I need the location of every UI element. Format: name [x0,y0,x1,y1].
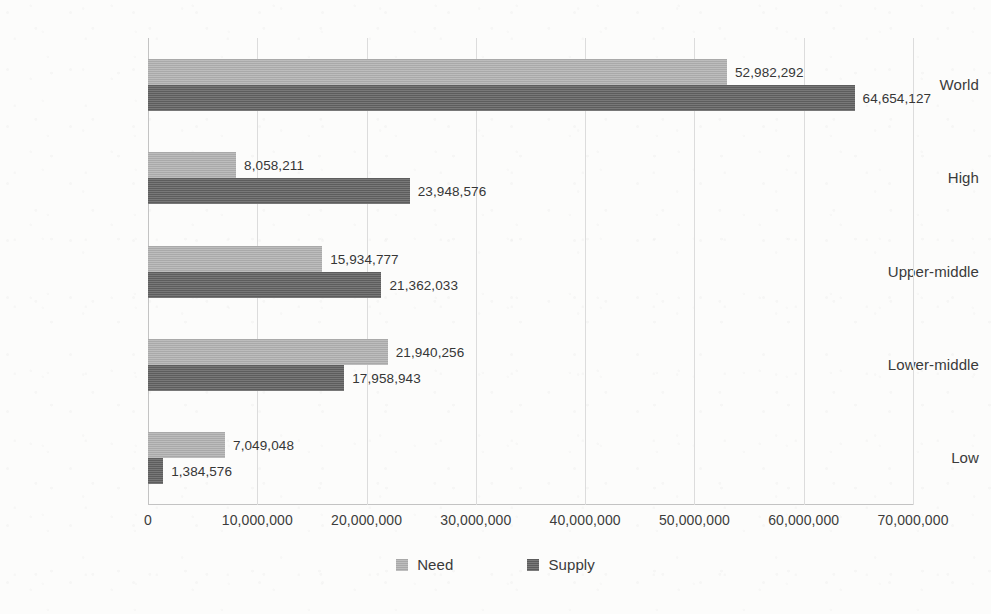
y-axis-category-label: Low [951,449,979,466]
bar-supply[interactable]: 21,362,033 [148,272,381,298]
bar-supply[interactable]: 64,654,127 [148,85,855,111]
bar-need[interactable]: 8,058,211 [148,152,236,178]
bar-value-label: 64,654,127 [863,90,932,105]
legend-item-need[interactable]: Need [396,556,453,573]
bar-value-label: 21,940,256 [396,344,465,359]
bar-chart: WorldHighUpper-middleLower-middleLow 52,… [0,0,991,614]
bar-supply[interactable]: 17,958,943 [148,365,344,391]
bar-row: 1,384,576 [148,458,913,484]
bar-group: 52,982,29264,654,127 [148,59,913,111]
bar-value-label: 1,384,576 [171,464,232,479]
bar-value-label: 17,958,943 [352,370,421,385]
x-axis-tick-label: 60,000,000 [768,512,839,528]
bar-value-label: 15,934,777 [330,251,399,266]
legend-swatch-icon [527,559,539,571]
bar-value-label: 23,948,576 [418,184,487,199]
bar-need[interactable]: 7,049,048 [148,432,225,458]
bar-row: 23,948,576 [148,178,913,204]
bar-need[interactable]: 52,982,292 [148,59,727,85]
x-axis-tick-label: 50,000,000 [659,512,730,528]
bar-row: 21,362,033 [148,272,913,298]
bar-need[interactable]: 15,934,777 [148,246,322,272]
bar-row: 21,940,256 [148,339,913,365]
bar-group: 21,940,25617,958,943 [148,339,913,391]
bar-group: 15,934,77721,362,033 [148,246,913,298]
bar-value-label: 8,058,211 [244,158,304,173]
x-axis-tick-label: 0 [144,512,152,528]
bar-need[interactable]: 21,940,256 [148,339,388,365]
y-axis-category-label: High [948,169,979,186]
legend-label: Need [417,556,453,573]
x-axis-tick-label: 10,000,000 [222,512,293,528]
x-axis-tick-label: 30,000,000 [440,512,511,528]
legend-label: Supply [548,556,594,573]
bar-supply[interactable]: 1,384,576 [148,458,163,484]
y-axis-category-label: World [940,76,979,93]
bar-group: 7,049,0481,384,576 [148,432,913,484]
bar-row: 15,934,777 [148,246,913,272]
bar-row: 17,958,943 [148,365,913,391]
legend-swatch-icon [396,559,408,571]
legend-item-supply[interactable]: Supply [527,556,594,573]
bar-value-label: 52,982,292 [735,64,804,79]
x-axis-tick-label: 40,000,000 [550,512,621,528]
bar-row: 64,654,127 [148,85,913,111]
bar-value-label: 7,049,048 [233,438,294,453]
chart-legend: NeedSupply [0,556,991,573]
bar-group: 8,058,21123,948,576 [148,152,913,204]
x-axis-tick-label: 20,000,000 [331,512,402,528]
x-axis-tick-label: 70,000,000 [877,512,948,528]
bar-row: 8,058,211 [148,152,913,178]
gridline [913,38,914,505]
bar-row: 7,049,048 [148,432,913,458]
bar-supply[interactable]: 23,948,576 [148,178,410,204]
plot-area: 52,982,29264,654,1278,058,21123,948,5761… [148,38,913,505]
bar-value-label: 21,362,033 [389,277,458,292]
bar-row: 52,982,292 [148,59,913,85]
